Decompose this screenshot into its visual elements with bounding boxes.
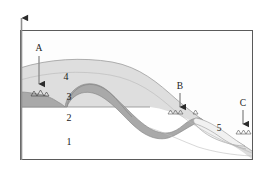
cross-section-svg: A B C 4 3 2 1 5 xyxy=(0,0,269,177)
unit-label-5: 5 xyxy=(217,123,222,133)
unit-label-4: 4 xyxy=(64,71,69,82)
annotation-b-label: B xyxy=(177,81,183,91)
figure-canvas: A B C 4 3 2 1 5 xyxy=(0,0,269,177)
annotation-a-label: A xyxy=(36,43,43,53)
unit-label-1: 1 xyxy=(67,136,72,147)
unit-label-3: 3 xyxy=(67,91,72,102)
annotation-c-label: C xyxy=(240,98,246,108)
unit-label-2: 2 xyxy=(67,112,72,123)
